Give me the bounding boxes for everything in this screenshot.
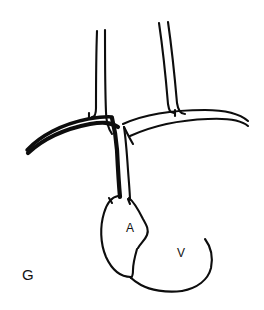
figure-panel: A V G [0, 0, 264, 310]
anatomical-line-drawing [0, 0, 264, 310]
figure-background [0, 0, 264, 310]
ventricle-label: V [177, 246, 185, 260]
panel-letter-label: G [22, 266, 34, 283]
atrium-label: A [126, 221, 134, 235]
